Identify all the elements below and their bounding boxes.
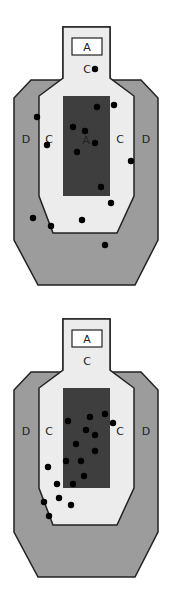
bullet-hole: [83, 427, 89, 433]
bullet-hole: [110, 420, 116, 426]
label-head-a: A: [83, 333, 91, 346]
bullet-hole: [108, 200, 114, 206]
label-body-a: A: [82, 134, 90, 147]
bullet-hole: [94, 104, 100, 110]
bullet-hole: [65, 418, 71, 424]
bullet-hole: [44, 142, 50, 148]
bullet-hole: [56, 495, 62, 501]
target-figure: ACADCCDACDCCD: [0, 0, 174, 589]
label-right-d: D: [142, 425, 150, 438]
bullet-hole: [74, 149, 80, 155]
target-2: ACDCCD: [14, 319, 158, 577]
label-left-d: D: [22, 425, 30, 438]
bullet-hole: [46, 513, 52, 519]
bullet-hole: [102, 242, 108, 248]
bullet-hole: [98, 184, 104, 190]
zone-a-body: [63, 388, 110, 488]
bullet-hole: [68, 502, 74, 508]
bullet-hole: [81, 473, 87, 479]
bullet-hole: [92, 448, 98, 454]
bullet-hole: [82, 128, 88, 134]
bullet-hole: [48, 223, 54, 229]
bullet-hole: [111, 102, 117, 108]
label-right-c: C: [116, 133, 124, 146]
bullet-hole: [92, 66, 98, 72]
bullet-hole: [63, 458, 69, 464]
label-head-c: C: [83, 355, 91, 368]
bullet-hole: [92, 432, 98, 438]
bullet-hole: [128, 158, 134, 164]
bullet-hole: [30, 215, 36, 221]
bullet-hole: [70, 481, 76, 487]
label-left-c: C: [45, 425, 53, 438]
label-left-d: D: [22, 133, 30, 146]
label-head-c: C: [83, 63, 91, 76]
bullet-hole: [70, 124, 76, 130]
bullet-hole: [79, 217, 85, 223]
bullet-hole: [87, 414, 93, 420]
target-1: ACADCCD: [14, 27, 158, 285]
targets-canvas: ACADCCDACDCCD: [0, 0, 174, 589]
label-right-c: C: [116, 425, 124, 438]
bullet-hole: [41, 499, 47, 505]
bullet-hole: [102, 411, 108, 417]
bullet-hole: [78, 458, 84, 464]
bullet-hole: [92, 140, 98, 146]
label-head-a: A: [83, 41, 91, 54]
bullet-hole: [54, 481, 60, 487]
bullet-hole: [73, 441, 79, 447]
bullet-hole: [45, 464, 51, 470]
bullet-hole: [34, 114, 40, 120]
label-right-d: D: [142, 133, 150, 146]
